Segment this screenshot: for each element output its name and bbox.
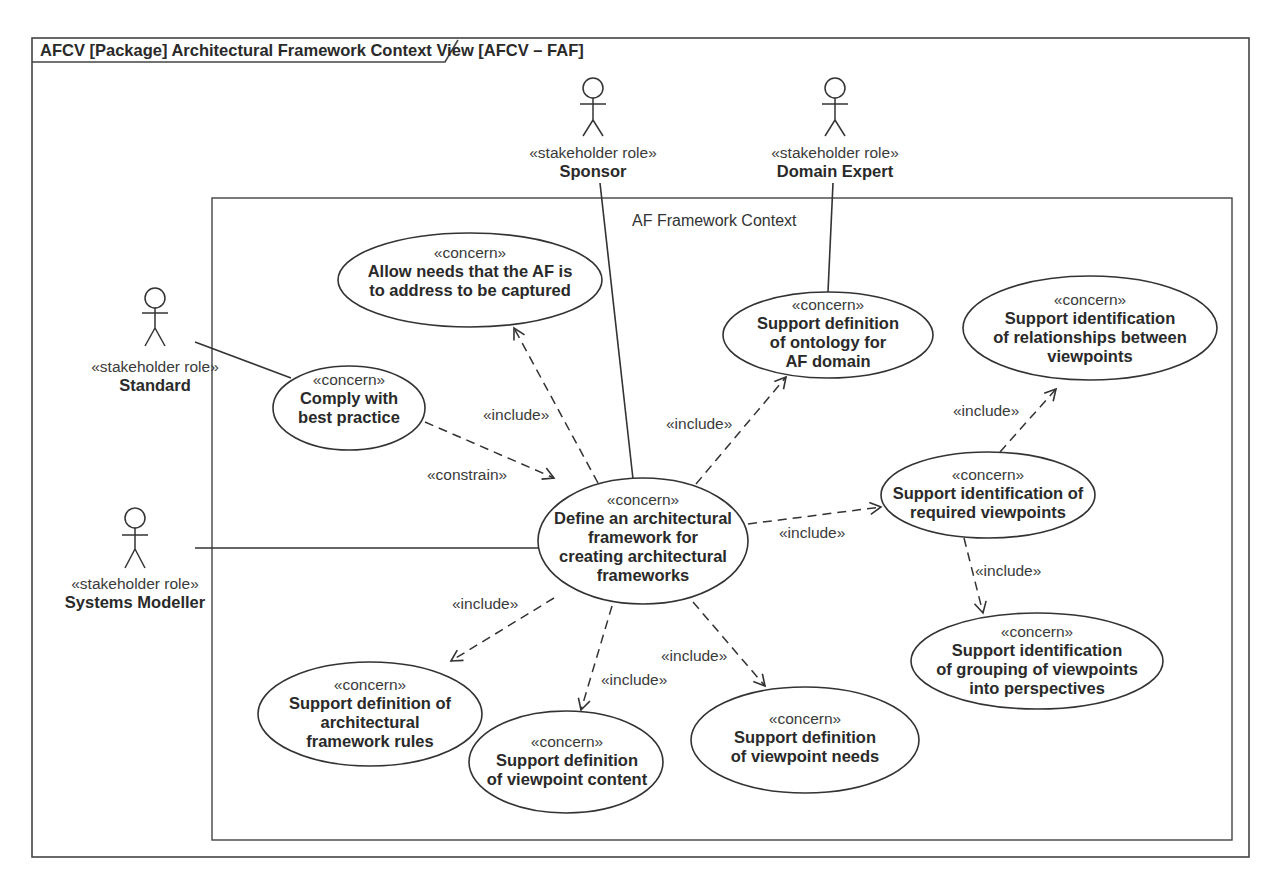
concern-text: creating architectural: [538, 547, 748, 566]
actor-systems-modeller-label: «stakeholder role» Systems Modeller: [35, 574, 235, 612]
concern-stereotype: «concern»: [912, 622, 1162, 641]
association-sponsor[interactable]: [600, 183, 633, 479]
concern-text: to address to be captured: [340, 281, 600, 300]
include-label-required-viewpoints: «include»: [779, 524, 845, 542]
concern-stereotype: «concern»: [965, 290, 1215, 309]
actor-domain-expert-icon[interactable]: [822, 78, 848, 136]
include-label-viewpoint-needs: «include»: [661, 647, 727, 665]
concern-stereotype: «concern»: [470, 732, 664, 751]
actor-stereotype: «stakeholder role»: [493, 143, 693, 162]
constrain-label: «constrain»: [427, 466, 507, 484]
include-relationships[interactable]: [1000, 389, 1056, 452]
actor-standard-icon[interactable]: [142, 288, 168, 346]
concern-define-af-label: «concern» Define an architectural framew…: [538, 490, 748, 585]
frame-title: AFCV [Package] Architectural Framework C…: [40, 41, 584, 60]
concern-stereotype: «concern»: [728, 295, 928, 314]
actor-sponsor-icon[interactable]: [580, 78, 606, 136]
actor-sponsor-label: «stakeholder role» Sponsor: [493, 143, 693, 181]
concern-ontology-label: «concern» Support definition of ontology…: [728, 295, 928, 371]
concern-text: Support identification: [912, 641, 1162, 660]
actor-stereotype: «stakeholder role»: [735, 143, 935, 162]
concern-text: viewpoints: [965, 347, 1215, 366]
concern-text: of viewpoint needs: [691, 747, 919, 766]
concern-text: Support definition: [728, 314, 928, 333]
concern-text: AF domain: [728, 352, 928, 371]
concern-text: Comply with: [274, 389, 424, 408]
concern-text: architectural: [260, 713, 480, 732]
concern-text: best practice: [274, 408, 424, 427]
concern-text: of relationships between: [965, 328, 1215, 347]
concern-text: Support identification: [965, 309, 1215, 328]
include-viewpoint-content[interactable]: [581, 606, 612, 710]
actor-systems-modeller-icon[interactable]: [122, 508, 148, 568]
include-label-rules: «include»: [452, 595, 518, 613]
concern-rules-label: «concern» Support definition of architec…: [260, 675, 480, 751]
concern-text: framework for: [538, 528, 748, 547]
concern-text: of grouping of viewpoints: [912, 660, 1162, 679]
concern-stereotype: «concern»: [881, 465, 1095, 484]
concern-text: frameworks: [538, 566, 748, 585]
concern-required-viewpoints-label: «concern» Support identification of requ…: [881, 465, 1095, 522]
actor-name: Systems Modeller: [35, 593, 235, 612]
association-domain-expert[interactable]: [828, 183, 833, 292]
concern-text: of ontology for: [728, 333, 928, 352]
include-label-viewpoint-content: «include»: [601, 671, 667, 689]
concern-stereotype: «concern»: [274, 370, 424, 389]
include-label-relationships: «include»: [953, 402, 1019, 420]
concern-text: Support identification of: [881, 484, 1095, 503]
include-label-grouping: «include»: [975, 562, 1041, 580]
include-required-viewpoints[interactable]: [748, 507, 881, 524]
concern-text: Support definition: [691, 728, 919, 747]
concern-stereotype: «concern»: [691, 709, 919, 728]
concern-text: Define an architectural: [538, 509, 748, 528]
concern-text: Allow needs that the AF is: [340, 262, 600, 281]
actor-standard-label: «stakeholder role» Standard: [55, 357, 255, 395]
concern-stereotype: «concern»: [260, 675, 480, 694]
actor-name: Domain Expert: [735, 162, 935, 181]
include-label-ontology: «include»: [666, 415, 732, 433]
actor-stereotype: «stakeholder role»: [35, 574, 235, 593]
boundary-label: AF Framework Context: [632, 212, 796, 230]
concern-text: required viewpoints: [881, 503, 1095, 522]
concern-viewpoint-content-label: «concern» Support definition of viewpoin…: [470, 732, 664, 789]
concern-relationships-label: «concern» Support identification of rela…: [965, 290, 1215, 366]
concern-stereotype: «concern»: [538, 490, 748, 509]
actor-name: Sponsor: [493, 162, 693, 181]
actor-domain-expert-label: «stakeholder role» Domain Expert: [735, 143, 935, 181]
concern-comply-label: «concern» Comply with best practice: [274, 370, 424, 427]
include-viewpoint-needs[interactable]: [693, 602, 765, 686]
actor-name: Standard: [55, 376, 255, 395]
concern-allow-needs-label: «concern» Allow needs that the AF is to …: [340, 243, 600, 300]
concern-text: Support definition of: [260, 694, 480, 713]
include-label-allow-needs: «include»: [483, 406, 549, 424]
concern-text: of viewpoint content: [470, 770, 664, 789]
concern-text: into perspectives: [912, 679, 1162, 698]
concern-viewpoint-needs-label: «concern» Support definition of viewpoin…: [691, 709, 919, 766]
concern-stereotype: «concern»: [340, 243, 600, 262]
actor-stereotype: «stakeholder role»: [55, 357, 255, 376]
concern-text: Support definition: [470, 751, 664, 770]
concern-text: framework rules: [260, 732, 480, 751]
concern-grouping-label: «concern» Support identification of grou…: [912, 622, 1162, 698]
